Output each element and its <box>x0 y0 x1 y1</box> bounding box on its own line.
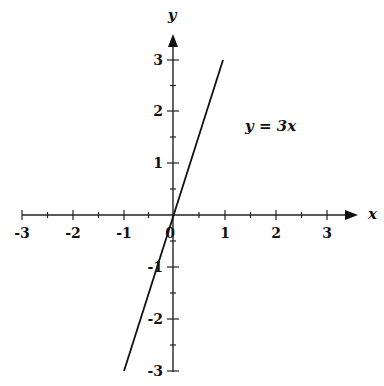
y-tick-label: 3 <box>153 52 163 68</box>
x-tick-label: 0 <box>165 225 175 241</box>
y-tick-label: -2 <box>147 311 163 327</box>
x-tick-label: 3 <box>322 225 332 241</box>
x-tick-label: -1 <box>116 225 132 241</box>
x-axis-label: x <box>367 205 378 223</box>
x-tick-label: -2 <box>65 225 81 241</box>
equation-label: y = 3x <box>244 117 297 135</box>
y-tick-label: -1 <box>147 259 163 275</box>
y-tick-label: -3 <box>147 363 163 379</box>
chart-canvas: -3 -2 -1 0 1 2 3 3 2 1 -1 -2 -3 x y y = … <box>0 0 384 386</box>
x-tick-label: 1 <box>220 225 230 241</box>
y-tick-label: 1 <box>153 155 163 171</box>
x-axis-arrow-icon <box>345 210 358 220</box>
x-tick-label: 2 <box>271 225 281 241</box>
y-axis-label: y <box>167 6 178 24</box>
y-axis-arrow-icon <box>168 34 178 47</box>
x-tick-label: -3 <box>14 225 30 241</box>
y-tick-label: 2 <box>153 103 163 119</box>
